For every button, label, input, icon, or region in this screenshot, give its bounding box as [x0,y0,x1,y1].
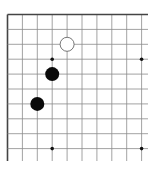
star-point [140,147,144,151]
board-grid [8,15,149,162]
star-point [50,147,54,151]
black-stone[interactable] [45,67,59,81]
go-board[interactable] [0,0,156,169]
black-stone[interactable] [30,97,44,111]
white-stone[interactable] [60,37,74,51]
star-point [50,57,54,61]
star-point [140,57,144,61]
